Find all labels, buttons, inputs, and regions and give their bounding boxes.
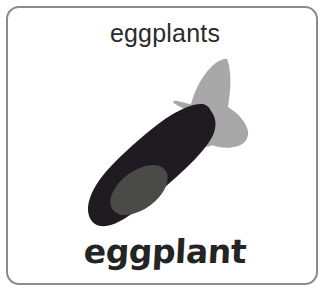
caption-bottom: eggplant (0, 232, 330, 272)
caption-top: eggplants (0, 18, 330, 48)
flashcard: eggplants eggplant (0, 0, 330, 295)
